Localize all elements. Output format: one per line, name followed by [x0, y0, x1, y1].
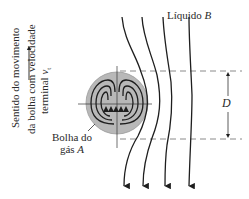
bubble-flow-diagram: Líquido B Bolha do gás A D Sentido do mo… [0, 0, 249, 199]
direction-text-line3: terminal vt [38, 68, 55, 114]
streamline-3 [163, 17, 172, 186]
direction-text-line1: Sentido do movimento [9, 28, 21, 128]
direction-text-line2: da bolha com velocidade [25, 24, 37, 134]
diameter-label: D [222, 97, 231, 109]
streamline-4 [189, 17, 192, 186]
gas-bubble-label: Bolha do gás A [48, 131, 96, 155]
liquid-b-label: Líquido B [167, 9, 211, 21]
